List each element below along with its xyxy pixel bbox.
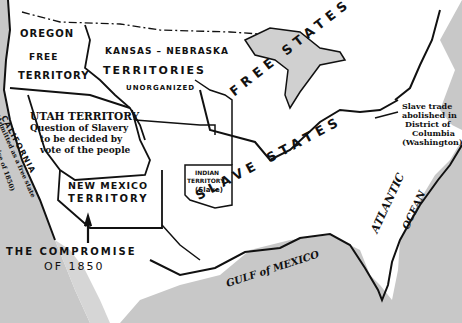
label-kansas-nebraska: KANSAS – NEBRASKA [105, 46, 229, 56]
label-oregon: OREGON [20, 28, 74, 39]
label-dc-line5: (Washington) [402, 137, 462, 147]
dc-pointer [375, 112, 398, 118]
ne-coast [395, 10, 440, 100]
label-utah-territory: UTAH TERRITORY [30, 110, 139, 122]
label-kn-unorganized: UNORGANIZED [126, 84, 195, 92]
label-utah-decided: to be decided by [40, 134, 122, 144]
map-title-line2: OF 1850 [44, 260, 104, 273]
label-new-mexico: NEW MEXICO [68, 180, 148, 191]
label-utah-question: Question of Slavery [30, 123, 128, 133]
kansas-border [135, 120, 215, 135]
label-kn-territories: TERRITORIES [103, 64, 206, 77]
label-oregon-free: FREE [29, 52, 58, 62]
texas-border [162, 225, 200, 260]
label-utah-vote: vote of the people [40, 145, 130, 155]
map-shapes [0, 0, 462, 323]
map-title-line1: THE COMPROMISE [6, 246, 137, 257]
label-nm-territory: TERRITORY [68, 193, 149, 204]
label-indian: INDIAN [195, 169, 219, 176]
compromise-1850-map: OREGON FREE TERRITORY KANSAS – NEBRASKA … [0, 0, 462, 323]
label-oregon-territory: TERRITORY [18, 70, 90, 81]
gulf-and-atlantic [120, 140, 462, 323]
compromise-arrow [85, 216, 91, 243]
